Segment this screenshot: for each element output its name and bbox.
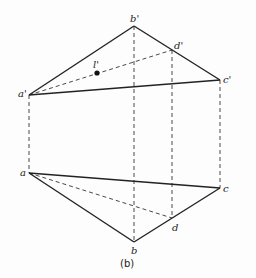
label-c: c xyxy=(223,184,229,194)
projection-lines xyxy=(29,26,220,242)
point-l-prime-dot xyxy=(94,70,99,75)
front-view-triangle xyxy=(29,26,220,95)
projection-diagram: b' d' l' c' a' a c d b (b) xyxy=(0,0,256,278)
top-view-triangle xyxy=(29,173,220,242)
label-c-prime: c' xyxy=(223,75,231,85)
label-d-prime: d' xyxy=(174,41,183,51)
label-b: b xyxy=(131,246,137,256)
diagram-lines xyxy=(0,0,256,278)
label-a-prime: a' xyxy=(18,89,27,99)
label-b-prime: b' xyxy=(130,14,139,24)
label-a: a xyxy=(20,168,26,178)
label-l-prime: l' xyxy=(93,60,99,70)
label-d: d xyxy=(172,223,178,233)
figure-caption: (b) xyxy=(120,259,134,269)
